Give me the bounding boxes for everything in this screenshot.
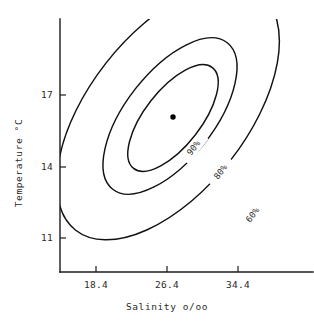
y-tick-label-11: 11 — [41, 232, 53, 243]
contour-80 — [78, 16, 262, 217]
x-axis-title: Salinity o/oo — [126, 301, 208, 312]
x-tick-label-18-4: 18.4 — [84, 279, 108, 290]
y-tick-label-14: 14 — [41, 161, 53, 172]
contour-group: 90% 80% 60% — [13, 0, 314, 279]
optimum-point-marker — [170, 114, 175, 119]
x-tick-label-34-4: 34.4 — [226, 279, 250, 290]
y-axis-title: Temperature °C — [13, 119, 24, 207]
temperature-axis-ticks — [60, 95, 66, 238]
y-tick-label-17: 17 — [41, 89, 53, 100]
x-tick-label-26-4: 26.4 — [155, 279, 179, 290]
salinity-axis-ticks — [96, 266, 238, 272]
contour-plot-figure: 90% 80% 60% 17 14 11 18.4 26.4 34.4 Temp… — [0, 0, 314, 327]
contour-60 — [13, 0, 314, 279]
